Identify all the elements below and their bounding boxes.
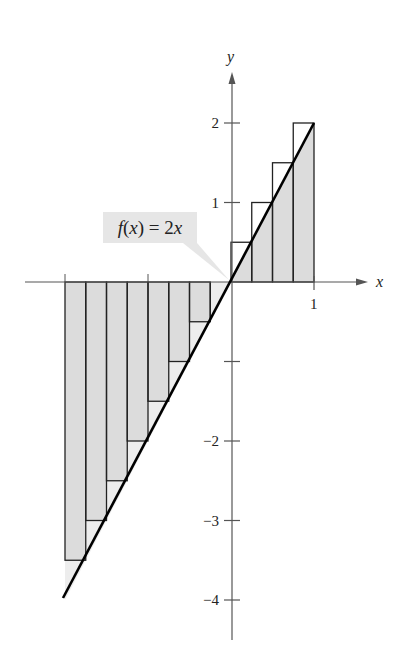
y-axis-label: y xyxy=(225,48,235,66)
label-pointer xyxy=(183,243,229,280)
rectangle-fill xyxy=(252,203,273,283)
rectangle-fill xyxy=(86,282,107,521)
label-eq: = 2 xyxy=(144,217,174,238)
x-tick-label: 1 xyxy=(310,296,318,312)
y-tick-label: −4 xyxy=(203,592,219,608)
label-pointer-wedge xyxy=(183,243,229,280)
rectangle-fill xyxy=(107,282,128,481)
x-axis-label: x xyxy=(375,273,383,290)
y-tick-label: 2 xyxy=(212,115,220,131)
rectangle-fill xyxy=(148,282,169,401)
rectangle-fill xyxy=(293,123,314,282)
rectangle-fill xyxy=(169,282,190,362)
rectangle-fill xyxy=(127,282,148,441)
rectangle-fill xyxy=(190,282,211,322)
y-tick-label: 1 xyxy=(212,195,220,211)
function-label: f(x) = 2x xyxy=(103,212,197,243)
x-axis-arrow-icon xyxy=(356,279,368,286)
y-tick-label: −3 xyxy=(203,513,219,529)
riemann-sum-chart: xy 1−4−3−212 xyxy=(0,0,402,653)
rectangle-fill xyxy=(65,282,86,560)
y-axis-arrow-icon xyxy=(229,72,236,84)
y-tick-label: −2 xyxy=(203,433,219,449)
label-x: x xyxy=(129,217,137,238)
label-x2: x xyxy=(174,217,182,238)
